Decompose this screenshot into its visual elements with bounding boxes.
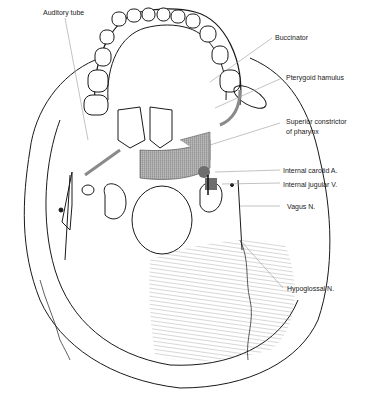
auditory-tube-band	[85, 150, 120, 175]
label-superior-constrictor: Superior constrictor	[286, 117, 347, 126]
label-auditory-tube: Auditory tube	[43, 8, 84, 17]
vessels	[198, 166, 217, 195]
label-superior-constrictor-2: of pharynx	[286, 127, 319, 136]
label-hypoglossal: Hypoglossal N.	[287, 284, 334, 293]
label-pterygoid-hamulus: Pterygoid hamulus	[286, 73, 344, 82]
label-internal-jugular: Internal jugular V.	[283, 180, 337, 189]
label-internal-carotid: Internal carotid A.	[283, 166, 337, 175]
occipital-hatched-area	[149, 240, 295, 361]
dental-arch	[84, 8, 241, 115]
foramen-magnum	[82, 182, 222, 254]
label-vagus: Vagus N.	[287, 202, 315, 211]
buccinator-band	[220, 90, 240, 125]
label-buccinator: Buccinator	[275, 33, 308, 42]
